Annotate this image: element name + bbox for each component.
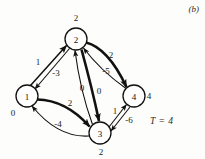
- node-2[interactable]: 2: [65, 28, 87, 50]
- node-3-label: 3: [98, 129, 103, 139]
- node-4-distance: 4: [147, 91, 152, 101]
- edge-label-2-4: 2: [109, 50, 114, 60]
- graph-diagram: 1 -3 2 -5 0 0 2 -4 1 -6 1 2 3: [0, 0, 205, 159]
- edge-label-1-2: 1: [36, 57, 41, 67]
- edge-label-3-2: 0: [80, 83, 85, 93]
- edge-label-3-1: -4: [54, 119, 62, 129]
- node-1-distance: 0: [11, 108, 16, 118]
- edge-label-4-2: -5: [102, 66, 110, 76]
- edge-3-to-4: [109, 105, 127, 128]
- node-2-label: 2: [74, 35, 79, 45]
- figure-panel: 1 -3 2 -5 0 0 2 -4 1 -6 1 2 3: [0, 0, 205, 159]
- time-step-label: T = 4: [150, 116, 174, 126]
- node-3[interactable]: 3: [89, 122, 111, 144]
- panel-label: (b): [189, 4, 200, 14]
- edge-label-3-4: 1: [113, 106, 118, 116]
- node-4[interactable]: 4: [123, 85, 145, 107]
- node-1-label: 1: [25, 92, 30, 102]
- edge-label-4-3: -6: [125, 115, 133, 125]
- node-3-distance: 2: [99, 147, 104, 157]
- node-1[interactable]: 1: [16, 85, 38, 107]
- edge-1-to-3: [37, 100, 90, 127]
- node-2-distance: 2: [74, 13, 79, 23]
- edge-label-2-3: 0: [97, 86, 102, 96]
- edge-label-1-3: 2: [68, 98, 73, 108]
- edge-2-to-4: [86, 43, 127, 88]
- edge-label-2-1: -3: [52, 68, 60, 78]
- node-4-label: 4: [132, 92, 137, 102]
